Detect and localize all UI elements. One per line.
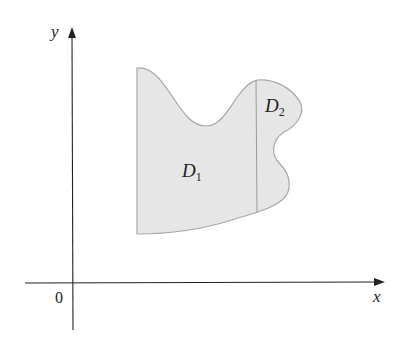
x-axis bbox=[25, 282, 376, 283]
region-d bbox=[137, 68, 302, 234]
x-axis-label: x bbox=[373, 287, 381, 307]
region-d2-subscript: 2 bbox=[279, 105, 285, 119]
origin-label: 0 bbox=[55, 289, 63, 307]
y-axis-label: y bbox=[51, 22, 59, 42]
region-d1-subscript: 1 bbox=[196, 170, 202, 184]
y-axis-arrow-icon bbox=[68, 27, 76, 38]
region-d2-name: D bbox=[265, 95, 279, 116]
y-axis bbox=[72, 36, 73, 330]
region-d2-label: D2 bbox=[265, 95, 285, 120]
x-axis-arrow-icon bbox=[374, 278, 385, 286]
region-d1-name: D bbox=[182, 160, 196, 181]
region-d1-label: D1 bbox=[182, 160, 202, 185]
